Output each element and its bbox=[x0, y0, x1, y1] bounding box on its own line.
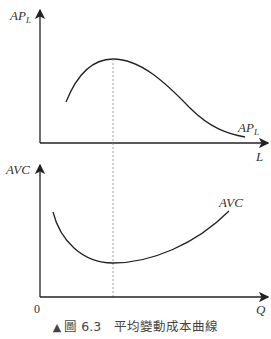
triangle-marker-icon: ▲ bbox=[53, 321, 61, 334]
origin-label: 0 bbox=[34, 302, 40, 316]
avc-curve bbox=[53, 211, 229, 263]
apl-curve-label: APL bbox=[237, 120, 259, 137]
chart-canvas: APL APL L AVC AVC 0 Q bbox=[0, 0, 271, 339]
avc-curve-label: AVC bbox=[218, 195, 243, 210]
apl-curve bbox=[66, 59, 245, 137]
caption-text: 圖 6.3 平均變動成本曲線 bbox=[64, 319, 218, 334]
top-x-label: L bbox=[255, 149, 263, 164]
bottom-x-label: Q bbox=[256, 302, 266, 317]
top-y-label: APL bbox=[9, 8, 31, 25]
figure-caption: ▲圖 6.3 平均變動成本曲線 bbox=[0, 316, 271, 335]
bottom-y-label: AVC bbox=[5, 162, 30, 177]
